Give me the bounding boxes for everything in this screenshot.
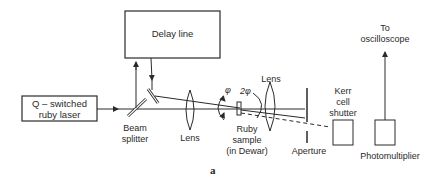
lens-1: [186, 90, 194, 130]
ruby-label-line2: sample: [222, 135, 272, 146]
kerr-label-line2: cell: [323, 97, 363, 108]
ruby-sample-label: Ruby sample (in Dewar): [222, 124, 272, 157]
kerr-cell-label: Kerr cell shutter: [323, 86, 363, 119]
lens-2-label: Lens: [256, 74, 286, 85]
delay-line-label: Delay line: [125, 28, 220, 39]
photomultiplier-box: [375, 120, 395, 145]
laser-label-line2: ruby laser: [22, 109, 97, 120]
beam-splitter-label-line2: splitter: [115, 134, 155, 145]
laser-label: Q – switched ruby laser: [22, 98, 97, 120]
beam-splitter-label: Beam splitter: [115, 123, 155, 145]
aperture-label: Aperture: [287, 146, 331, 157]
optical-setup-diagram: Delay line Q – switched ruby laser Beam …: [0, 0, 439, 180]
beam-splitter-label-line1: Beam: [115, 123, 155, 134]
kerr-label-line3: shutter: [323, 108, 363, 119]
lens-1-label: Lens: [175, 133, 205, 144]
two-phi-angle-label: 2φ: [240, 86, 251, 97]
laser-label-line1: Q – switched: [22, 98, 97, 109]
photomultiplier-label: Photomultiplier: [357, 151, 423, 162]
oscilloscope-label: To oscilloscope: [355, 23, 415, 45]
ruby-label-line1: Ruby: [222, 124, 272, 135]
phi-angle-label: φ: [225, 85, 231, 96]
oscilloscope-label-line2: oscilloscope: [355, 34, 415, 45]
kerr-label-line1: Kerr: [323, 86, 363, 97]
ruby-label-line3: (in Dewar): [222, 146, 272, 157]
oscilloscope-label-line1: To: [355, 23, 415, 34]
figure-label: a: [210, 165, 216, 176]
kerr-cell-box: [333, 120, 353, 145]
